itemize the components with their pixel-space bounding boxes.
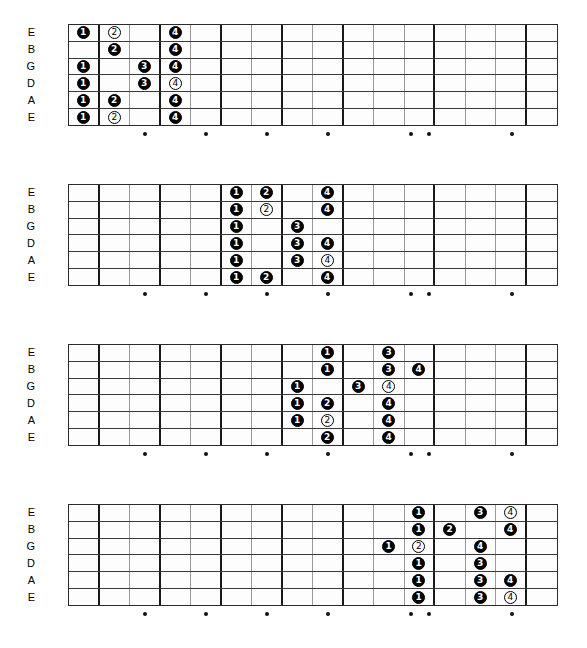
fret-cell[interactable] (191, 252, 222, 268)
fret-cell[interactable] (130, 109, 161, 125)
fret-cell[interactable] (283, 75, 314, 91)
fret-cell[interactable] (69, 572, 100, 588)
fret-cell[interactable] (466, 202, 497, 218)
fret-cell[interactable] (283, 362, 314, 378)
fret-cell[interactable] (435, 235, 466, 251)
fret-cell[interactable] (69, 379, 100, 395)
fret-cell[interactable] (527, 539, 558, 555)
fret-cell[interactable] (100, 269, 131, 285)
fret-cell[interactable]: 3 (283, 235, 314, 251)
fret-cell[interactable] (222, 555, 253, 571)
fret-cell[interactable] (405, 379, 436, 395)
fret-cell[interactable] (69, 362, 100, 378)
fret-cell[interactable]: 4 (161, 92, 192, 108)
fret-cell[interactable] (344, 589, 375, 605)
fret-cell[interactable] (252, 345, 283, 361)
fret-cell[interactable] (161, 252, 192, 268)
fret-cell[interactable] (496, 362, 527, 378)
fret-cell[interactable] (69, 589, 100, 605)
fret-cell[interactable] (130, 555, 161, 571)
fret-cell[interactable] (496, 109, 527, 125)
fret-cell[interactable] (222, 522, 253, 538)
fret-cell[interactable] (313, 555, 344, 571)
fret-cell[interactable]: 2 (100, 92, 131, 108)
fret-cell[interactable]: 4 (374, 379, 405, 395)
fret-cell[interactable] (283, 522, 314, 538)
fret-cell[interactable] (69, 555, 100, 571)
fret-cell[interactable] (405, 185, 436, 201)
fret-cell[interactable] (252, 109, 283, 125)
fret-cell[interactable] (496, 75, 527, 91)
fret-cell[interactable] (252, 362, 283, 378)
fret-cell[interactable]: 4 (496, 505, 527, 521)
fret-cell[interactable] (222, 92, 253, 108)
fret-cell[interactable] (191, 219, 222, 235)
fret-cell[interactable] (527, 345, 558, 361)
fret-cell[interactable] (191, 109, 222, 125)
fret-cell[interactable] (69, 429, 100, 445)
fret-cell[interactable]: 4 (496, 589, 527, 605)
fret-cell[interactable] (313, 505, 344, 521)
fret-cell[interactable] (527, 429, 558, 445)
fret-cell[interactable]: 3 (283, 219, 314, 235)
fret-cell[interactable] (344, 202, 375, 218)
fret-cell[interactable] (466, 92, 497, 108)
fret-cell[interactable] (527, 412, 558, 428)
fret-cell[interactable] (344, 185, 375, 201)
fret-cell[interactable] (527, 379, 558, 395)
fret-cell[interactable] (527, 395, 558, 411)
fret-cell[interactable] (496, 539, 527, 555)
fret-cell[interactable] (466, 269, 497, 285)
fret-cell[interactable] (161, 429, 192, 445)
fret-cell[interactable] (100, 505, 131, 521)
fret-cell[interactable] (100, 539, 131, 555)
fret-cell[interactable] (374, 59, 405, 75)
fret-cell[interactable] (313, 522, 344, 538)
fret-cell[interactable] (130, 522, 161, 538)
fret-cell[interactable] (130, 429, 161, 445)
fret-cell[interactable] (344, 412, 375, 428)
fret-cell[interactable] (100, 202, 131, 218)
fret-cell[interactable] (191, 75, 222, 91)
fret-cell[interactable] (252, 589, 283, 605)
fret-cell[interactable]: 2 (100, 109, 131, 125)
fret-cell[interactable]: 1 (222, 269, 253, 285)
fret-cell[interactable] (191, 379, 222, 395)
fret-cell[interactable] (435, 75, 466, 91)
fret-cell[interactable] (191, 429, 222, 445)
fret-cell[interactable] (435, 252, 466, 268)
fret-cell[interactable] (344, 362, 375, 378)
fret-cell[interactable] (191, 362, 222, 378)
fret-cell[interactable]: 2 (100, 42, 131, 58)
fret-cell[interactable] (313, 42, 344, 58)
fret-cell[interactable] (527, 572, 558, 588)
fret-cell[interactable] (496, 429, 527, 445)
fret-cell[interactable] (283, 429, 314, 445)
fret-cell[interactable]: 1 (69, 59, 100, 75)
fret-cell[interactable] (374, 92, 405, 108)
fret-cell[interactable] (161, 522, 192, 538)
fret-cell[interactable] (252, 235, 283, 251)
fret-cell[interactable] (496, 42, 527, 58)
fret-cell[interactable]: 1 (374, 539, 405, 555)
fret-cell[interactable] (222, 412, 253, 428)
fret-cell[interactable] (344, 252, 375, 268)
fret-cell[interactable] (344, 555, 375, 571)
fret-cell[interactable] (435, 25, 466, 41)
fret-cell[interactable] (435, 589, 466, 605)
fret-cell[interactable] (435, 539, 466, 555)
fret-cell[interactable]: 4 (313, 235, 344, 251)
fret-cell[interactable]: 3 (466, 589, 497, 605)
fret-cell[interactable]: 4 (374, 395, 405, 411)
fret-cell[interactable]: 3 (374, 345, 405, 361)
fret-cell[interactable] (283, 109, 314, 125)
fret-cell[interactable] (344, 505, 375, 521)
fret-cell[interactable] (283, 589, 314, 605)
fret-cell[interactable] (527, 42, 558, 58)
fret-cell[interactable] (374, 109, 405, 125)
fret-cell[interactable] (222, 75, 253, 91)
fret-cell[interactable] (527, 522, 558, 538)
fret-cell[interactable] (527, 202, 558, 218)
fret-cell[interactable] (130, 345, 161, 361)
fret-cell[interactable] (405, 202, 436, 218)
